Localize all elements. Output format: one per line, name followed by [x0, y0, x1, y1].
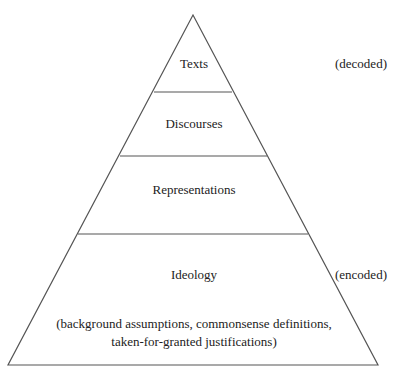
level-ideology: Ideology	[171, 267, 217, 283]
level-representations: Representations	[152, 182, 235, 198]
side-label-encoded: (encoded)	[335, 267, 387, 283]
side-label-decoded: (decoded)	[335, 56, 387, 72]
ideology-description-line1: (background assumptions, commonsense def…	[56, 316, 332, 332]
ideology-description-line2: taken-for-granted justifications)	[111, 334, 276, 350]
level-discourses: Discourses	[165, 116, 222, 132]
level-texts: Texts	[180, 56, 208, 72]
